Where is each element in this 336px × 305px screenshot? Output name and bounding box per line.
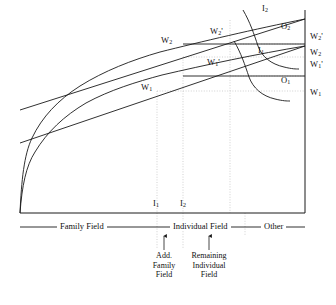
bracket-label-individual-field: Individual Field: [170, 221, 231, 231]
annotation-remaining-individual-field: Remaining Individual Field: [174, 251, 244, 280]
point-label-w1: W1: [141, 83, 152, 94]
indifference-curve-i2: [243, 10, 299, 69]
production-curve-lower: [20, 46, 305, 213]
axis-label-w1: W1: [310, 88, 321, 99]
point-label-w2: W2: [161, 36, 172, 47]
axis-label-w2: W2: [310, 48, 321, 59]
x-tick-label-i2: I2: [180, 199, 186, 210]
curve-label-i2: I2: [262, 4, 268, 15]
bracket-label-family-field: Family Field: [57, 221, 107, 231]
annotation-arrows: [164, 236, 209, 250]
bracket-label-other: Other: [261, 221, 286, 231]
point-label-w2-prime: W2': [210, 27, 223, 38]
curve-label-i1: I1: [258, 46, 264, 57]
annotation-remaining-individual-field-line-2: Individual: [174, 261, 244, 271]
point-label-w1-prime: W1': [207, 58, 220, 69]
annotation-remaining-individual-field-line-3: Field: [174, 270, 244, 280]
endowment-label-o2: O2: [281, 22, 290, 33]
budget-line-1: [20, 46, 305, 143]
field-allocation-diagram: I2 I1 W2 W2' W1' W1 O2 O1 W2' W2 W1' W1 …: [0, 0, 336, 305]
annotation-remaining-individual-field-line-1: Remaining: [174, 251, 244, 261]
axis-label-w1-prime: W1': [310, 60, 323, 71]
endowment-label-o1: O1: [281, 76, 290, 87]
axis-label-w2-prime: W2': [310, 32, 323, 43]
guide-lines: [157, 20, 305, 248]
budget-line-2: [20, 19, 305, 110]
x-tick-label-i1: I1: [153, 199, 159, 210]
